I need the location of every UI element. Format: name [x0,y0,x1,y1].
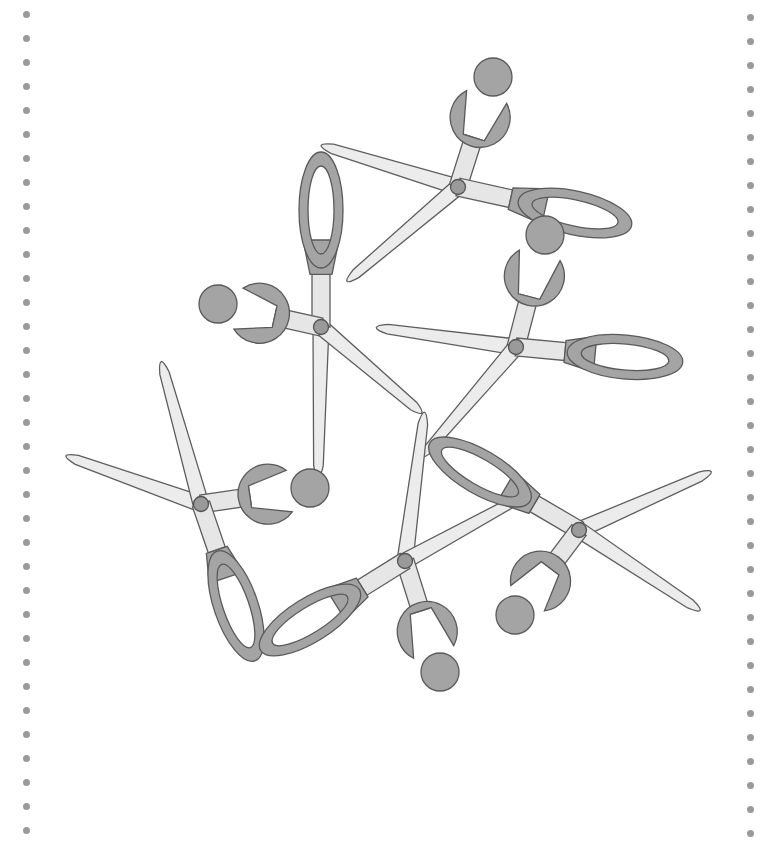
pivot-screw-icon [451,180,466,195]
finger-ring-handle [450,58,512,147]
finger-loop-handle [565,330,685,384]
scissor-blade [397,412,428,562]
scissors [321,58,636,282]
scissor-blade [576,471,712,538]
pivot-screw-icon [194,497,209,512]
pivot-screw-icon [509,340,524,355]
scissors-illustration [0,0,774,857]
finger-loop-handle [249,571,371,670]
finger-ring-handle [238,464,329,524]
scissors [199,152,422,478]
scissor-blade [347,181,463,282]
finger-ring-handle [504,216,564,306]
finger-loop-handle [419,424,541,521]
finger-ring-handle [397,602,459,691]
scissor-blade [376,324,517,355]
pivot-screw-icon [572,523,587,538]
finger-ring-handle [199,283,289,343]
scissor-blade [575,523,701,611]
pivot-screw-icon [398,554,413,569]
scissors [66,362,329,668]
pivot-screw-icon [314,320,329,335]
scissor-blade [321,144,460,195]
finger-ring-handle [496,551,571,634]
scissor-blade [313,327,329,478]
